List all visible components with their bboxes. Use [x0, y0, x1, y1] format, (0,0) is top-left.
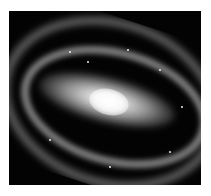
star	[109, 166, 111, 168]
star	[169, 151, 171, 153]
galaxy-image	[9, 11, 201, 185]
star	[69, 51, 71, 53]
star	[87, 61, 89, 63]
star	[49, 139, 51, 141]
star	[159, 69, 161, 71]
star	[181, 106, 183, 108]
star	[127, 49, 129, 51]
